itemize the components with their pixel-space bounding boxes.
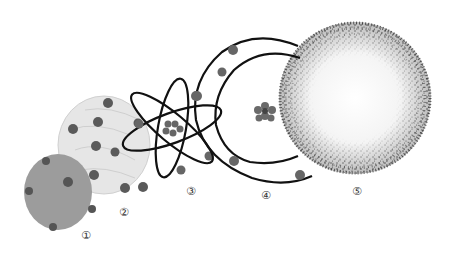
model-5-electron-cloud bbox=[279, 22, 431, 174]
model-4-nucleus bbox=[254, 102, 276, 122]
label-model-2: ② bbox=[117, 207, 131, 221]
figure-canvas bbox=[0, 0, 457, 258]
atomic-models-figure: ① ② ③ ④ ⑤ bbox=[0, 0, 457, 258]
label-model-5: ⑤ bbox=[350, 186, 364, 200]
label-model-4: ④ bbox=[259, 190, 273, 204]
label-model-3: ③ bbox=[184, 186, 198, 200]
model-3-nucleus bbox=[163, 121, 184, 137]
label-model-1: ① bbox=[79, 230, 93, 244]
